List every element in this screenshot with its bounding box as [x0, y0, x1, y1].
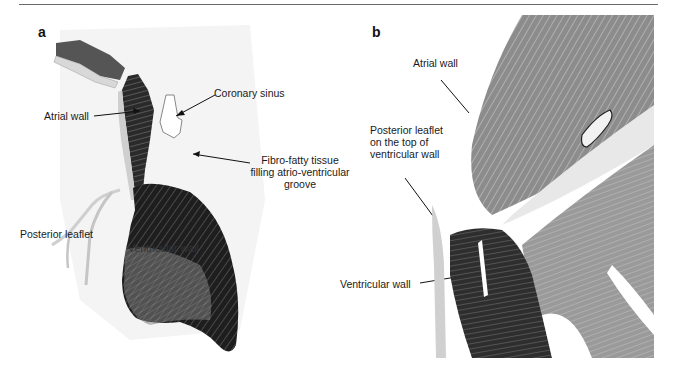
label-fibro-fatty-line2: filling atrio-ventricular — [240, 166, 360, 178]
label-ventricular-wall-a: Ventricular wall — [128, 242, 199, 254]
label-ventricular-wall-b: Ventricular wall — [340, 278, 411, 290]
label-coronary-sinus: Coronary sinus — [214, 87, 285, 99]
label-posterior-leaflet-b-line3: ventricular wall — [370, 148, 443, 160]
label-fibro-fatty-tissue: Fibro-fatty tissue filling atrio-ventric… — [240, 154, 360, 190]
label-fibro-fatty-line3: groove — [240, 178, 360, 190]
label-atrial-wall-b: Atrial wall — [413, 57, 458, 69]
label-posterior-leaflet-b-line2: on the top of — [370, 136, 443, 148]
label-posterior-leaflet-a: Posterior leaflet — [20, 228, 93, 240]
label-posterior-leaflet-b-line1: Posterior leaflet — [370, 124, 443, 136]
label-atrial-wall-a: Atrial wall — [44, 110, 89, 122]
panel-a-letter: a — [38, 24, 46, 40]
panel-b-histology-image — [432, 15, 654, 358]
panel-b-letter: b — [372, 24, 381, 40]
label-posterior-leaflet-b: Posterior leaflet on the top of ventricu… — [370, 124, 443, 160]
label-fibro-fatty-line1: Fibro-fatty tissue — [240, 154, 360, 166]
